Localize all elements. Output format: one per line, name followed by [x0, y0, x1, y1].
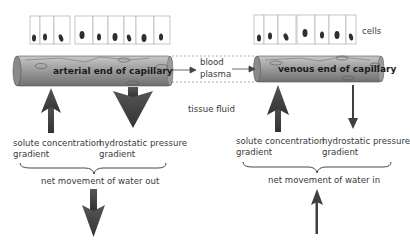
cells-label: cells	[362, 26, 381, 37]
arterial-solute-arrow	[41, 88, 61, 133]
arterial-net-label: net movement of water out	[41, 176, 159, 187]
venous-solute-arrow	[267, 85, 289, 132]
flow-arrow-in	[232, 66, 255, 72]
arterial-hydro-label-2: gradient	[99, 149, 135, 160]
net-in-arrow	[311, 189, 323, 234]
tissue-fluid-label: tissue fluid	[188, 104, 235, 115]
arterial-hydrostatic-arrow	[113, 87, 153, 128]
venous-label: venous end of capillary	[278, 64, 396, 74]
arterial-brace	[20, 163, 166, 174]
net-out-arrow	[82, 189, 105, 237]
venous-hydrostatic-arrow	[348, 85, 358, 129]
arterial-hydro-label-1: hydrostatic pressure	[99, 138, 187, 149]
venous-hydro-label-2: gradient	[322, 147, 358, 158]
blood-label: blood	[200, 57, 224, 68]
plasma-label: plasma	[200, 69, 231, 80]
venous-solute-label-1: solute concentration	[236, 136, 324, 147]
arterial-solute-label-1: solute concentration	[13, 138, 101, 149]
arterial-solute-label-2: gradient	[13, 149, 49, 160]
venous-solute-label-2: gradient	[236, 147, 272, 158]
venous-hydro-label-1: hydrostatic pressure	[322, 136, 410, 147]
venous-net-label: net movement of water in	[268, 175, 380, 186]
arterial-label: arterial end of capillary	[53, 66, 173, 76]
venous-brace	[243, 162, 391, 173]
flow-arrow-out	[172, 67, 196, 73]
